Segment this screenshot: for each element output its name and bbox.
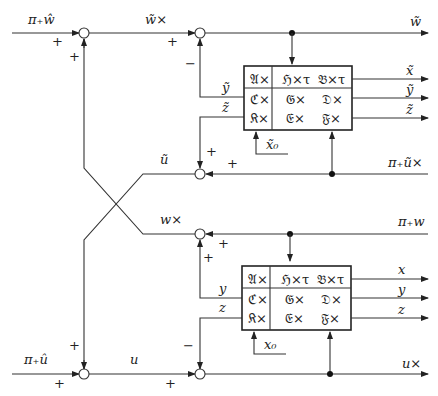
sign-s3-above: +	[206, 144, 217, 159]
signal-label-top-in: π₊ŵ	[27, 12, 55, 27]
sign-s6-above: −	[183, 338, 194, 353]
cell-A: 𝔄×	[248, 272, 268, 287]
cell-B-tau: 𝔅×τ	[317, 272, 344, 287]
cell-A: 𝔄×	[250, 72, 270, 87]
branch-point	[327, 371, 333, 377]
summing-junction-s2	[195, 28, 205, 38]
cell-H-tau: ℌ×τ	[282, 72, 310, 87]
signal-label-y: y	[397, 282, 406, 297]
summing-junction-s1	[79, 28, 89, 38]
signal-label-z-in: z	[218, 300, 226, 315]
cell-C: ℭ×	[250, 92, 270, 107]
cell-H-tau: ℌ×τ	[281, 272, 309, 287]
cell-B-tau: 𝔅×τ	[318, 72, 345, 87]
sign-s2-below: −	[185, 56, 196, 71]
signal-label-tilde-x: x̃	[406, 63, 414, 78]
signal-label-pi-w: π₊w	[397, 214, 425, 229]
cell-K: 𝔎×	[250, 111, 269, 126]
signal-label-u: u	[130, 352, 138, 367]
signal-label-top-out: w̃	[410, 14, 421, 29]
cell-E: 𝔈×	[286, 111, 305, 126]
cell-F: 𝔉×	[321, 311, 340, 326]
sign-s4-below: +	[203, 250, 214, 265]
signal-label-u-out: u×	[402, 356, 421, 371]
signal-label-z: z	[397, 302, 405, 317]
sign-s6-left: +	[165, 376, 176, 391]
signal-label-bottom-in: π₊û	[23, 352, 48, 367]
sign-s2-left: +	[167, 34, 178, 49]
cell-D: 𝔇×	[321, 292, 342, 307]
signal-label-tilde-u: ũ	[160, 152, 168, 167]
signal-label-w-times: w×	[160, 212, 182, 227]
cell-D: 𝔇×	[322, 92, 343, 107]
signal-label-tilde-u-right: π₊ũ×	[387, 155, 423, 170]
sign-s1-left: +	[52, 34, 63, 49]
cell-E: 𝔈×	[285, 311, 304, 326]
signal-label-tilde-z: z̃	[405, 102, 413, 117]
sign-s3-right: +	[227, 156, 238, 171]
sign-s5-left: +	[54, 376, 65, 391]
sign-s5-above: +	[69, 338, 80, 353]
signal-label-top-mid: w̃×	[145, 12, 167, 27]
cell-K: 𝔎×	[248, 311, 267, 326]
summing-junction-s4	[195, 229, 205, 239]
summing-junction-s6	[195, 369, 205, 379]
signal-label-x0: x₀	[264, 337, 277, 352]
sign-s1-below: +	[69, 49, 80, 64]
branch-point	[329, 171, 335, 177]
signal-label-tilde-z-in: z̃	[221, 100, 229, 115]
cell-G: 𝔊×	[286, 92, 306, 107]
summing-junction-s5	[79, 369, 89, 379]
signal-label-tilde-y-in: ỹ	[221, 80, 230, 95]
cell-F: 𝔉×	[322, 111, 341, 126]
block-diagram: π₊ŵ w̃× w̃ + + + − ỹ z̃ 𝔄× ℌ×τ 𝔅×τ ℭ× 𝔊×…	[0, 0, 438, 396]
cell-C: ℭ×	[248, 292, 268, 307]
signal-label-x: x	[398, 262, 406, 277]
signal-label-tilde-y: ỹ	[405, 82, 414, 97]
cross-connector-w	[84, 39, 195, 234]
signal-label-tilde-x0: x̃₀	[266, 137, 279, 152]
upper-block: 𝔄× ℌ×τ 𝔅×τ ℭ× 𝔊× 𝔇× 𝔎× 𝔈× 𝔉×	[244, 66, 352, 130]
cell-G: 𝔊×	[285, 292, 305, 307]
cross-connector-u	[84, 174, 195, 370]
signal-label-y-in: y	[218, 281, 227, 296]
lower-block: 𝔄× ℌ×τ 𝔅×τ ℭ× 𝔊× 𝔇× 𝔎× 𝔈× 𝔉×	[242, 266, 351, 330]
sign-s4-right: +	[218, 236, 229, 251]
summing-junction-s3	[195, 169, 205, 179]
